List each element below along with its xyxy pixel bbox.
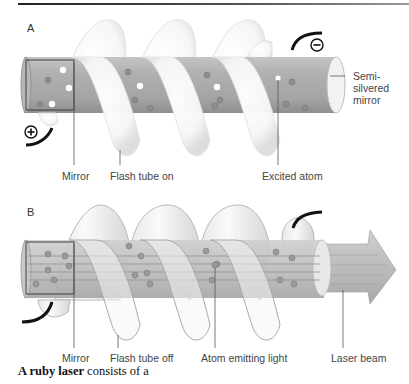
panel-label-a: A bbox=[27, 22, 34, 34]
label-flash-tube-off: Flash tube off bbox=[110, 352, 173, 364]
panel-a bbox=[21, 20, 345, 165]
semi-silvered-mirror-b bbox=[313, 240, 331, 296]
panel-b bbox=[21, 205, 396, 348]
figure-caption: A ruby laser consists of a bbox=[18, 364, 149, 379]
label-mirror-b: Mirror bbox=[62, 352, 89, 364]
laser-beam-arrow bbox=[322, 230, 396, 304]
semi-silvered-mirror-a bbox=[327, 57, 345, 113]
label-semi-silvered-mirror: Semi- silvered mirror bbox=[353, 70, 389, 106]
flash-tube-off-front bbox=[70, 240, 280, 340]
label-atom-emitting-light: Atom emitting light bbox=[201, 352, 287, 364]
label-excited-atom: Excited atom bbox=[262, 170, 323, 182]
label-mirror-a: Mirror bbox=[62, 170, 89, 182]
ruby-laser-diagram bbox=[0, 0, 409, 384]
caption-rest: consists of a bbox=[84, 364, 149, 378]
caption-bold: A ruby laser bbox=[18, 364, 84, 378]
panel-label-b: B bbox=[27, 206, 34, 218]
label-flash-tube-on: Flash tube on bbox=[110, 170, 174, 182]
label-laser-beam: Laser beam bbox=[331, 352, 386, 364]
